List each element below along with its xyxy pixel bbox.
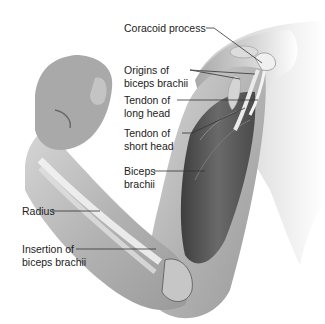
label-biceps-brachii: Biceps brachii <box>124 165 156 190</box>
biceps-anatomy-figure: Coracoid process Origins of biceps brach… <box>0 0 325 324</box>
label-insertion-of-biceps: Insertion of biceps brachii <box>22 243 86 268</box>
arm-illustration <box>0 0 325 324</box>
label-radius: Radius <box>22 205 55 218</box>
label-origins-of-biceps: Origins of biceps brachii <box>124 64 188 89</box>
label-tendon-long-head: Tendon of long head <box>124 94 170 119</box>
label-tendon-short-head: Tendon of short head <box>124 127 174 152</box>
label-coracoid-process: Coracoid process <box>124 22 206 35</box>
